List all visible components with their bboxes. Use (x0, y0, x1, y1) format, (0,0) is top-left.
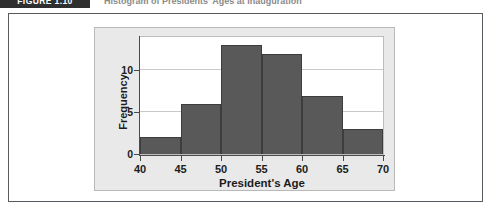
x-tick-mark (221, 156, 222, 161)
x-tick-mark (181, 156, 182, 161)
x-tick-mark (343, 156, 344, 161)
x-axis-title: President's Age (139, 177, 385, 189)
x-tick-label: 40 (123, 163, 157, 175)
x-tick-label: 65 (326, 163, 360, 175)
figure-header-strip: FIGURE 1.10 Histogram of Presidents' Age… (0, 0, 497, 9)
x-tick-label: 50 (204, 163, 238, 175)
y-axis-line (139, 36, 140, 156)
x-tick-label: 60 (285, 163, 319, 175)
x-tick-label: 45 (164, 163, 198, 175)
histogram-bar (262, 54, 303, 154)
y-tick-mark (134, 112, 140, 113)
y-axis-title: Frequency (117, 47, 129, 157)
figure-caption: Histogram of Presidents' Ages at Inaugur… (104, 0, 302, 8)
y-tick-mark (134, 154, 140, 155)
y-tick-mark (134, 70, 140, 71)
chart-panel: 0510 40455055606570 Frequency President'… (94, 27, 395, 191)
x-tick-label: 55 (245, 163, 279, 175)
figure-frame: 0510 40455055606570 Frequency President'… (8, 13, 483, 202)
x-tick-mark (140, 156, 141, 161)
histogram-bar (221, 45, 262, 154)
plot-area (139, 36, 384, 155)
histogram-bar (140, 137, 181, 154)
x-tick-label: 70 (366, 163, 400, 175)
plot-inner (140, 37, 383, 154)
x-tick-mark (302, 156, 303, 161)
figure-number-badge: FIGURE 1.10 (0, 0, 90, 8)
histogram-bar (302, 96, 343, 155)
histogram-bar (181, 104, 222, 154)
x-tick-mark (262, 156, 263, 161)
x-tick-mark (383, 156, 384, 161)
histogram-bar (343, 129, 384, 154)
